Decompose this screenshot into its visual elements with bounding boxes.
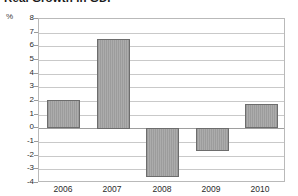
x-axis-tick-label: 2010 bbox=[251, 184, 270, 194]
x-axis-tick-label: 2006 bbox=[54, 184, 73, 194]
y-axis-tick-label: 3 bbox=[4, 82, 34, 90]
y-axis-tick-label: -2 bbox=[4, 151, 34, 159]
x-axis-tick-label: 2007 bbox=[103, 184, 122, 194]
x-axis-labels: 20062007200820092010 bbox=[38, 184, 285, 196]
gridline bbox=[39, 87, 284, 88]
y-axis-tick-mark bbox=[34, 182, 38, 183]
y-axis-labels: 876543210-1-2-3-4 bbox=[0, 18, 34, 182]
y-axis-tick-label: 5 bbox=[4, 55, 34, 63]
bar-2006 bbox=[47, 100, 80, 128]
y-axis-tick-label: 6 bbox=[4, 41, 34, 49]
y-axis-tick-label: 2 bbox=[4, 96, 34, 104]
y-axis-tick-label: 8 bbox=[4, 14, 34, 22]
plot-area bbox=[38, 18, 285, 182]
y-axis-tick-label: 0 bbox=[4, 123, 34, 131]
x-axis-tick-label: 2009 bbox=[202, 184, 221, 194]
bar-2010 bbox=[245, 104, 278, 128]
gridline bbox=[39, 46, 284, 47]
gridline bbox=[39, 60, 284, 61]
y-axis-tick-label: 1 bbox=[4, 110, 34, 118]
chart-page: Real Growth in GDP % 876543210-1-2-3-4 2… bbox=[0, 0, 298, 196]
bar-2008 bbox=[146, 128, 179, 177]
gridline bbox=[39, 33, 284, 34]
y-axis-tick-label: -4 bbox=[4, 178, 34, 186]
y-axis-tick-label: -3 bbox=[4, 164, 34, 172]
bar-2009 bbox=[196, 128, 229, 151]
chart-title-clip: Real Growth in GDP bbox=[0, 0, 298, 6]
bar-2007 bbox=[97, 39, 130, 129]
y-axis-tick-label: 4 bbox=[4, 69, 34, 77]
page-title: Real Growth in GDP bbox=[4, 0, 115, 4]
gridline bbox=[39, 74, 284, 75]
y-axis-tick-label: -1 bbox=[4, 137, 34, 145]
x-axis-tick-label: 2008 bbox=[153, 184, 172, 194]
y-axis-tick-label: 7 bbox=[4, 28, 34, 36]
